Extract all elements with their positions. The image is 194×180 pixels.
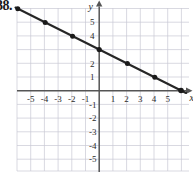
x-axis-label: x <box>189 92 194 103</box>
data-point <box>125 61 130 66</box>
data-point <box>43 20 48 25</box>
data-point <box>15 6 20 11</box>
coordinate-plane: -5 -4 -3 -2 -1 1 2 3 4 5 5 4 2 1 -1 -2 -… <box>0 0 193 180</box>
x-tick-label: 3 <box>138 94 143 104</box>
y-tick-label: 2 <box>90 59 95 69</box>
y-tick-label: -3 <box>89 127 97 137</box>
y-tick-label: -1 <box>89 100 97 110</box>
data-point <box>70 34 75 39</box>
x-tick-label: 4 <box>152 94 157 104</box>
y-tick-label: 5 <box>90 17 95 27</box>
y-tick-label: 1 <box>90 72 95 82</box>
x-tick-label: -5 <box>27 94 35 104</box>
y-tick-label: 4 <box>90 31 95 41</box>
x-tick-label: -3 <box>54 94 62 104</box>
problem-number: 38. <box>0 0 12 14</box>
grid-horizontal-lines <box>17 9 189 172</box>
data-point <box>178 88 184 94</box>
data-point <box>152 75 157 80</box>
data-point <box>97 47 102 52</box>
y-axis <box>96 1 102 173</box>
y-tick-label: -2 <box>89 113 97 123</box>
x-tick-label: 5 <box>165 94 170 104</box>
y-axis-label: y <box>88 1 94 12</box>
y-tick-label: -4 <box>89 141 97 151</box>
x-tick-label: 2 <box>124 94 129 104</box>
y-tick-label: -5 <box>89 154 97 164</box>
x-tick-label: 1 <box>111 94 116 104</box>
x-tick-label: -2 <box>68 94 76 104</box>
x-tick-label: -4 <box>41 94 49 104</box>
graph-figure: 38. <box>0 0 193 180</box>
